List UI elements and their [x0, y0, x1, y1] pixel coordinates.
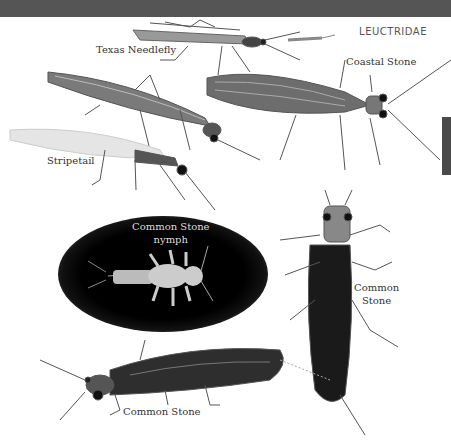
coastal-stone-image: [207, 60, 451, 170]
label-coastal-stone: Coastal Stone: [346, 55, 416, 68]
small-needlefly-image: [288, 35, 335, 40]
label-common-stone-right-line2: Stone: [354, 294, 399, 307]
label-common-stone-bottom: Common Stone: [123, 405, 201, 418]
nymph-photo-oval: Common Stone nymph: [58, 216, 268, 332]
label-common-stone-right: Common Stone: [354, 281, 399, 307]
nymph-label-line2: nymph: [132, 233, 210, 246]
label-common-stone-right-line1: Common: [354, 281, 399, 294]
stripetail-image: [10, 129, 215, 210]
nymph-label: Common Stone nymph: [132, 220, 210, 246]
common-stone-right-image: [280, 190, 398, 435]
label-stripetail: Stripetail: [47, 154, 95, 167]
label-texas-needlefly: Texas Needlefly: [96, 43, 176, 56]
nymph-label-line1: Common Stone: [132, 220, 210, 233]
